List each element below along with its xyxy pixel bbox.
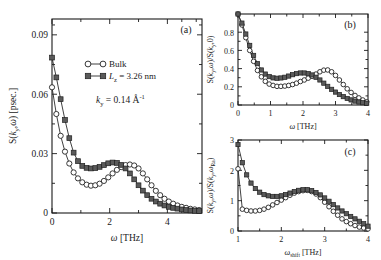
data-point-confined	[123, 166, 128, 171]
data-point-confined	[344, 212, 348, 216]
data-point-confined	[331, 202, 335, 206]
data-point-confined	[362, 222, 366, 226]
legend-marker-confined-right	[100, 73, 105, 78]
y-tick-label: 3	[230, 136, 234, 145]
data-point-bulk	[62, 149, 67, 154]
x-tick-label: 3	[334, 109, 338, 118]
panel-a-ylabel: S(ky,ω) [psec.]	[8, 88, 20, 144]
data-point-bulk	[106, 175, 111, 180]
data-point-confined	[336, 206, 340, 210]
data-point-confined	[50, 55, 55, 60]
legend-marker-bulk-left	[85, 61, 91, 67]
y-tick-label: 0	[230, 101, 234, 110]
data-point-confined	[310, 189, 314, 193]
data-point-confined	[255, 61, 259, 65]
data-point-bulk	[345, 87, 350, 92]
data-point-bulk	[101, 178, 106, 183]
x-tick-label: 0	[236, 109, 240, 118]
y-tick-label: 1	[230, 197, 234, 206]
panel-a-frame	[52, 19, 202, 213]
data-point-bulk	[266, 205, 271, 210]
data-point-confined	[288, 191, 292, 195]
data-point-bulk	[140, 171, 145, 176]
data-point-bulk	[327, 204, 332, 209]
data-point-confined	[197, 209, 202, 214]
data-point-confined	[357, 219, 361, 223]
legend-marker-bulk-right	[100, 61, 106, 67]
data-point-bulk	[54, 111, 59, 116]
data-point-bulk	[236, 167, 241, 172]
data-point-bulk	[361, 226, 366, 231]
panel-a-tag: (a)	[180, 24, 191, 36]
data-point-confined	[340, 209, 344, 213]
data-point-confined	[262, 192, 266, 196]
data-point-bulk	[49, 85, 54, 90]
data-point-confined	[284, 192, 288, 196]
data-point-bulk	[341, 82, 346, 87]
y-tick-label: 0.8	[224, 29, 234, 38]
data-point-bulk	[340, 217, 345, 222]
data-point-bulk	[67, 161, 72, 166]
y-tick-label: 2	[230, 167, 234, 176]
data-point-confined	[301, 188, 305, 192]
data-point-confined	[67, 136, 72, 141]
data-point-confined	[132, 177, 137, 182]
panel-a: 02400.030.060.09	[31, 19, 202, 227]
panel-c-ylabel: S(ky,ω)/S(ky,ωRa)	[206, 157, 216, 213]
data-point-bulk	[329, 69, 334, 74]
data-point-confined	[353, 217, 357, 221]
legend-label-confined: Lz = 3.26 nm	[108, 71, 156, 82]
figure-container: 02400.030.060.090123400.20.40.60.8123401…	[0, 0, 381, 260]
data-point-confined	[266, 194, 270, 198]
data-point-bulk	[240, 207, 245, 212]
data-point-confined	[275, 194, 279, 198]
data-point-confined	[292, 189, 296, 193]
data-point-bulk	[158, 193, 163, 198]
data-point-bulk	[75, 176, 80, 181]
y-tick-label: 0.2	[224, 83, 234, 92]
data-point-confined	[244, 32, 248, 36]
series-line-bulk	[52, 87, 199, 210]
data-point-confined	[245, 173, 249, 177]
x-tick-label: 2	[107, 217, 112, 227]
data-point-bulk	[145, 177, 150, 182]
data-point-bulk	[153, 188, 158, 193]
x-tick-label: 1	[269, 109, 273, 118]
data-point-bulk	[279, 198, 284, 203]
y-tick-label: 0.6	[224, 47, 234, 56]
panel-b-tag: (b)	[344, 19, 356, 31]
data-point-bulk	[357, 225, 362, 230]
legend-marker-confined-left	[85, 73, 90, 78]
data-point-bulk	[275, 200, 280, 205]
data-point-bulk	[257, 208, 262, 213]
data-point-confined	[71, 150, 76, 155]
data-point-confined	[248, 43, 252, 47]
data-point-confined	[140, 188, 145, 193]
data-point-bulk	[110, 171, 115, 176]
data-point-confined	[251, 53, 255, 57]
panel-b-ylabel: S(ky,ω)/S(ky,0)	[206, 35, 216, 83]
data-point-bulk	[58, 133, 63, 138]
data-point-confined	[259, 68, 263, 72]
data-point-confined	[58, 97, 63, 102]
data-point-bulk	[333, 73, 338, 78]
data-point-confined	[323, 196, 327, 200]
data-point-bulk	[270, 203, 275, 208]
ky-annotation: ky = 0.14 Å-1	[96, 93, 145, 106]
x-tick-label: 4	[366, 109, 370, 118]
legend-label-bulk: Bulk	[109, 59, 127, 69]
data-point-bulk	[337, 78, 342, 83]
y-tick-label: 0.4	[224, 65, 234, 74]
data-point-confined	[54, 75, 59, 80]
data-point-confined	[236, 12, 240, 16]
data-point-confined	[365, 101, 369, 105]
data-point-confined	[236, 142, 240, 146]
data-point-bulk	[247, 48, 252, 53]
x-tick-label: 3	[323, 235, 327, 244]
data-point-bulk	[244, 208, 249, 213]
y-tick-label: 0.06	[31, 90, 48, 100]
data-point-bulk	[253, 209, 258, 214]
y-tick-label: 0.03	[31, 149, 48, 159]
x-tick-label: 2	[279, 235, 283, 244]
data-point-confined	[258, 190, 262, 194]
